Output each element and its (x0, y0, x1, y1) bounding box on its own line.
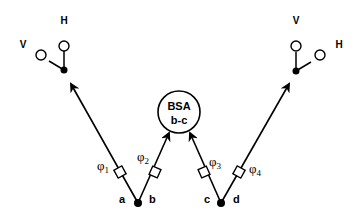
phase-label-4: φ4 (249, 161, 262, 178)
left-v-label: V (20, 39, 27, 50)
right-v-label: V (293, 15, 300, 26)
phase-shifter-1-icon (114, 166, 126, 178)
phase-label-2: φ2 (137, 149, 149, 166)
svg-text:b-c: b-c (171, 114, 188, 126)
source-dot-ab (134, 199, 142, 207)
path-d (221, 84, 289, 203)
right-h-label: H (335, 39, 342, 50)
port-label-c: c (204, 193, 210, 205)
detector-h-icon (315, 50, 325, 60)
bsa-node: BSA b-c (158, 91, 200, 133)
port-label-a: a (119, 193, 126, 205)
left-h-label: H (60, 15, 67, 26)
interferometer-diagram: φ1 φ2 φ3 φ4 a b c d BSA b-c H V V H (0, 0, 361, 212)
detector-v-icon (36, 50, 46, 60)
phase-shifter-2-icon (149, 166, 161, 178)
right-detector: V H (291, 15, 343, 75)
phase-shifter-4-icon (233, 166, 245, 178)
phase-label-1: φ1 (97, 158, 109, 175)
source-dot-cd (217, 199, 225, 207)
phase-label-3: φ3 (209, 154, 222, 171)
detector-h-icon (59, 41, 69, 51)
port-label-b: b (149, 193, 156, 205)
svg-text:BSA: BSA (167, 100, 190, 112)
detector-v-icon (291, 41, 301, 51)
left-detector: H V (20, 15, 69, 74)
path-a (71, 84, 138, 203)
port-label-d: d (233, 193, 240, 205)
